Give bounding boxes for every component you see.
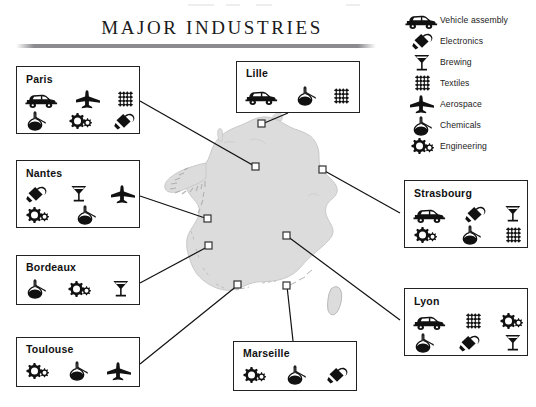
vehicle-assembly-icon bbox=[25, 89, 59, 109]
legend-item-aerospace: Aerospace bbox=[404, 94, 536, 114]
city-label-lille: Lille bbox=[246, 67, 268, 79]
chemicals-icon bbox=[460, 224, 482, 245]
engineering-icon bbox=[68, 111, 92, 131]
textiles-icon bbox=[116, 89, 135, 109]
city-label-strasbourg: Strasbourg bbox=[414, 187, 472, 199]
icon-row-strasbourg-1 bbox=[413, 203, 523, 224]
engineering-icon bbox=[413, 225, 437, 245]
city-box-lyon[interactable]: Lyon bbox=[404, 288, 528, 356]
engineering-icon bbox=[67, 279, 91, 299]
vehicle-assembly-icon bbox=[245, 86, 279, 106]
electronics-icon bbox=[113, 111, 135, 131]
legend-item-vehicle-assembly: Vehicle assembly bbox=[404, 10, 536, 30]
legend-item-brewing: Brewing bbox=[404, 52, 536, 72]
city-label-nantes: Nantes bbox=[26, 167, 62, 179]
legend-item-electronics: Electronics bbox=[404, 31, 536, 51]
marker-marseille[interactable] bbox=[283, 282, 290, 289]
vehicle-assembly-icon bbox=[413, 204, 447, 224]
icon-row-strasbourg-2 bbox=[413, 224, 523, 245]
chemicals-icon bbox=[285, 364, 307, 385]
legend-item-engineering: Engineering bbox=[404, 136, 536, 156]
icon-row-nantes-1 bbox=[25, 183, 135, 204]
electronics-icon bbox=[464, 204, 486, 224]
brewing-icon bbox=[404, 52, 440, 72]
electronics-icon bbox=[404, 31, 440, 51]
leader-marseille bbox=[287, 286, 293, 341]
marker-lyon[interactable] bbox=[283, 232, 290, 239]
aerospace-icon bbox=[107, 361, 131, 381]
icon-row-paris-2 bbox=[25, 110, 135, 131]
city-box-toulouse[interactable]: Toulouse bbox=[16, 337, 140, 387]
marker-strasbourg[interactable] bbox=[319, 166, 326, 173]
legend-item-chemicals: Chemicals bbox=[404, 115, 536, 135]
brewing-icon bbox=[503, 332, 523, 353]
legend-label-vehicle-assembly: Vehicle assembly bbox=[440, 15, 508, 25]
city-box-strasbourg[interactable]: Strasbourg bbox=[404, 180, 528, 248]
electronics-icon bbox=[25, 184, 47, 204]
chemicals-icon bbox=[25, 110, 47, 131]
aerospace-icon bbox=[76, 89, 100, 109]
textiles-icon bbox=[504, 225, 523, 245]
icon-row-toulouse-1 bbox=[25, 360, 131, 381]
chemicals-icon bbox=[404, 115, 440, 135]
legend-label-brewing: Brewing bbox=[440, 57, 472, 67]
marker-nantes[interactable] bbox=[204, 215, 211, 222]
city-label-paris: Paris bbox=[26, 73, 53, 85]
engineering-icon bbox=[242, 365, 266, 385]
marker-lille[interactable] bbox=[258, 120, 265, 127]
city-label-lyon: Lyon bbox=[414, 295, 440, 307]
city-box-marseille[interactable]: Marseille bbox=[233, 341, 357, 391]
legend-label-textiles: Textiles bbox=[440, 78, 469, 88]
city-box-lille[interactable]: Lille bbox=[236, 61, 360, 113]
textiles-icon bbox=[332, 86, 351, 106]
engineering-icon bbox=[404, 136, 440, 156]
city-label-toulouse: Toulouse bbox=[26, 343, 74, 355]
legend: Vehicle assembly Electronics Brewing Tex… bbox=[404, 10, 536, 157]
icon-row-nantes-2 bbox=[25, 204, 97, 225]
legend-label-chemicals: Chemicals bbox=[440, 120, 481, 130]
legend-label-engineering: Engineering bbox=[440, 141, 487, 151]
legend-label-electronics: Electronics bbox=[440, 36, 483, 46]
icon-row-marseille-1 bbox=[242, 364, 348, 385]
engineering-icon bbox=[25, 361, 49, 381]
aerospace-icon bbox=[404, 94, 440, 114]
legend-item-textiles: Textiles bbox=[404, 73, 536, 93]
city-box-bordeaux[interactable]: Bordeaux bbox=[16, 255, 140, 305]
textiles-icon bbox=[464, 311, 483, 331]
city-box-nantes[interactable]: Nantes bbox=[16, 160, 140, 228]
textiles-icon bbox=[404, 73, 440, 93]
marker-toulouse[interactable] bbox=[234, 281, 241, 288]
brewing-icon bbox=[503, 203, 523, 224]
vehicle-assembly-icon bbox=[404, 10, 440, 30]
engineering-icon bbox=[499, 311, 523, 331]
icon-row-bordeaux-1 bbox=[25, 278, 131, 299]
icon-row-lyon-1 bbox=[413, 311, 523, 331]
marker-bordeaux[interactable] bbox=[205, 242, 212, 249]
legend-label-aerospace: Aerospace bbox=[440, 99, 482, 109]
marker-paris[interactable] bbox=[252, 163, 259, 170]
icon-row-lille-1 bbox=[245, 85, 351, 106]
chemicals-icon bbox=[75, 204, 97, 225]
electronics-icon bbox=[458, 333, 480, 353]
city-label-bordeaux: Bordeaux bbox=[26, 261, 76, 273]
city-label-marseille: Marseille bbox=[243, 347, 290, 359]
chemicals-icon bbox=[25, 278, 47, 299]
vehicle-assembly-icon bbox=[413, 311, 447, 331]
chemicals-icon bbox=[295, 85, 317, 106]
icon-row-lyon-2 bbox=[413, 332, 523, 353]
chemicals-icon bbox=[67, 360, 89, 381]
leader-toulouse bbox=[140, 285, 238, 364]
engineering-icon bbox=[25, 205, 49, 225]
infographic-root: MAJOR INDUSTRIES bbox=[0, 0, 536, 407]
city-box-paris[interactable]: Paris bbox=[16, 66, 140, 134]
brewing-icon bbox=[111, 278, 131, 299]
electronics-icon bbox=[326, 365, 348, 385]
icon-row-paris-1 bbox=[25, 89, 135, 109]
brewing-icon bbox=[69, 183, 89, 204]
chemicals-icon bbox=[413, 332, 435, 353]
aerospace-icon bbox=[111, 184, 135, 204]
